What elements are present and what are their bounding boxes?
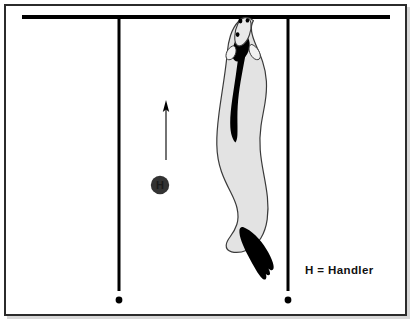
dog-ear-right — [246, 18, 250, 22]
figure-root: H H = Handler — [0, 0, 415, 325]
start-dot-left — [116, 297, 123, 304]
scene-drawing — [0, 0, 415, 325]
dog-figure — [217, 18, 274, 280]
handler-marker[interactable] — [151, 176, 169, 194]
legend-handler-label: H = Handler — [305, 264, 374, 276]
direction-arrow — [163, 100, 169, 160]
dog-ear-left — [238, 19, 242, 24]
dog-eye-spot — [236, 32, 240, 37]
start-dot-right — [285, 297, 292, 304]
